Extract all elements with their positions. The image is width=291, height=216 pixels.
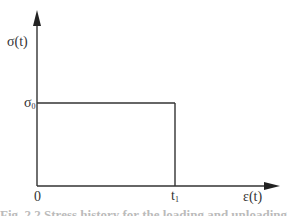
figure-caption: Fig. 2.2 Stress history for the loading … bbox=[0, 207, 287, 216]
y-axis-arrow-icon bbox=[33, 10, 41, 26]
diagram-canvas bbox=[0, 0, 291, 216]
t-subscript: 1 bbox=[175, 195, 179, 204]
sigma-symbol: σ bbox=[24, 95, 32, 110]
x-axis-arrow-icon bbox=[264, 182, 280, 190]
origin-label: 0 bbox=[34, 190, 41, 204]
sigma-zero-label: σ0 bbox=[24, 96, 36, 111]
x-axis-label: ε(t) bbox=[243, 190, 262, 204]
t1-label: t1 bbox=[171, 189, 179, 204]
y-axis-label: σ(t) bbox=[7, 35, 28, 49]
sigma-subscript: 0 bbox=[32, 102, 36, 111]
